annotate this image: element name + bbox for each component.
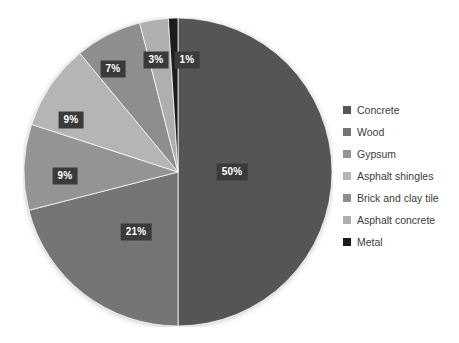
slice-label-asphalt-concrete: 3% bbox=[144, 52, 169, 69]
legend-item-gypsum[interactable]: Gypsum bbox=[343, 143, 455, 165]
slice-label-asphalt-shingles: 9% bbox=[59, 112, 84, 129]
slice-label-wood: 21% bbox=[121, 224, 152, 241]
legend-item-brick-and-clay-tile[interactable]: Brick and clay tile bbox=[343, 187, 455, 209]
legend-item-asphalt-shingles[interactable]: Asphalt shingles bbox=[343, 165, 455, 187]
legend-item-concrete[interactable]: Concrete bbox=[343, 99, 455, 121]
legend-swatch-icon bbox=[343, 172, 351, 180]
legend-swatch-icon bbox=[343, 216, 351, 224]
legend-item-metal[interactable]: Metal bbox=[343, 231, 455, 253]
legend-item-label: Metal bbox=[357, 237, 383, 248]
legend-swatch-icon bbox=[343, 128, 351, 136]
legend-item-label: Asphalt concrete bbox=[357, 215, 435, 226]
legend-item-label: Gypsum bbox=[357, 149, 396, 160]
pie-slice-concrete[interactable] bbox=[178, 18, 332, 326]
pie-plot-area: 50% 21% 9% 9% 7% 3% 1% bbox=[23, 17, 333, 327]
legend-item-label: Concrete bbox=[357, 105, 400, 116]
legend-item-asphalt-concrete[interactable]: Asphalt concrete bbox=[343, 209, 455, 231]
legend-swatch-icon bbox=[343, 150, 351, 158]
slice-label-brick-and-clay-tile: 7% bbox=[101, 61, 126, 78]
legend-swatch-icon bbox=[343, 238, 351, 246]
legend-swatch-icon bbox=[343, 106, 351, 114]
legend-item-wood[interactable]: Wood bbox=[343, 121, 455, 143]
legend-item-label: Wood bbox=[357, 127, 384, 138]
legend-item-label: Asphalt shingles bbox=[357, 171, 433, 182]
pie-chart: 50% 21% 9% 9% 7% 3% 1% ConcreteWoodGypsu… bbox=[0, 0, 459, 343]
legend-item-label: Brick and clay tile bbox=[357, 193, 439, 204]
slice-label-concrete: 50% bbox=[217, 164, 248, 181]
legend-swatch-icon bbox=[343, 194, 351, 202]
legend: ConcreteWoodGypsumAsphalt shinglesBrick … bbox=[343, 99, 455, 253]
slice-label-gypsum: 9% bbox=[53, 168, 78, 185]
slice-label-metal: 1% bbox=[175, 52, 200, 69]
